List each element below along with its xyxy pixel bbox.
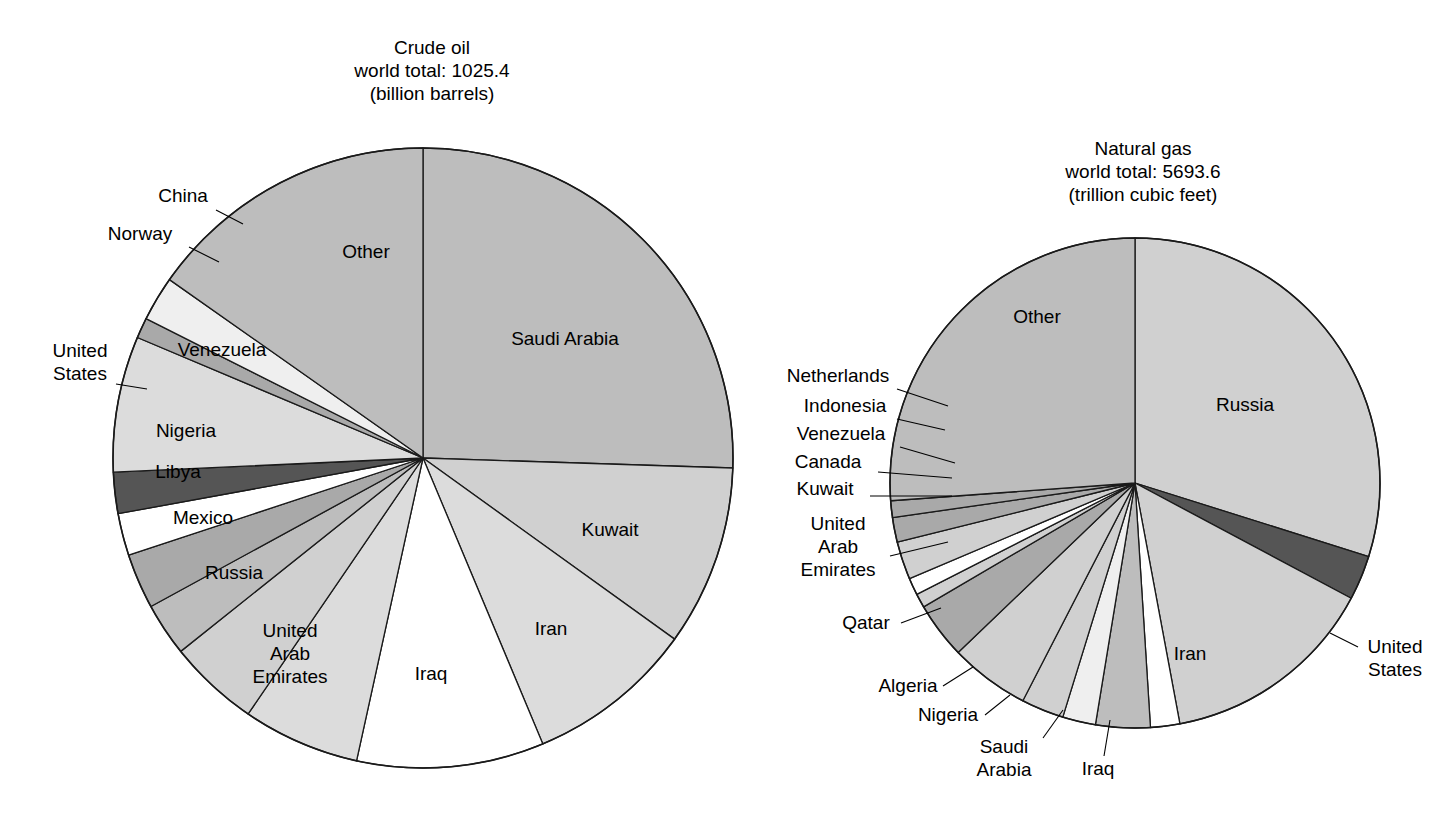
- slice-label-other-line-1: Other: [1013, 306, 1061, 327]
- title-crude-oil: Crude oilworld total: 1025.4(billion bar…: [353, 37, 510, 104]
- slice-label-russia: Russia: [1216, 394, 1275, 415]
- outside-label-nigeria: Nigeria: [918, 704, 979, 725]
- leader-line-united-states: [1330, 633, 1358, 647]
- slice-label-nigeria: Nigeria: [156, 420, 217, 441]
- slice-label-saudi-arabia: Saudi Arabia: [511, 328, 619, 349]
- outside-label-norway-line-1: Norway: [108, 223, 173, 244]
- chart-title-crude-oil-line-1: Crude oil: [394, 37, 470, 58]
- chart-title-crude-oil-line-3: (billion barrels): [370, 83, 495, 104]
- pie-natural-gas: [890, 238, 1380, 728]
- outside-label-china-line-1: China: [158, 185, 208, 206]
- slice-label-venezuela-line-1: Venezuela: [178, 339, 267, 360]
- slice-label-libya-line-1: Libya: [155, 461, 201, 482]
- outside-label-saudi-arabia-line-1: Saudi: [980, 736, 1029, 757]
- outside-label-qatar: Qatar: [842, 612, 890, 633]
- outside-label-algeria: Algeria: [878, 675, 938, 696]
- outside-label-united-states-line-2: States: [1368, 659, 1422, 680]
- chart-title-natural-gas: Natural gasworld total: 5693.6(trillion …: [1064, 138, 1220, 205]
- slice-label-kuwait: Kuwait: [581, 519, 639, 540]
- slice-label-russia-line-1: Russia: [205, 562, 264, 583]
- slice-label-venezuela: Venezuela: [178, 339, 267, 360]
- outside-label-canada: Canada: [795, 451, 862, 472]
- slice-label-iran-line-1: Iran: [535, 618, 568, 639]
- outside-label-qatar-line-1: Qatar: [842, 612, 890, 633]
- outside-label-kuwait-line-1: Kuwait: [796, 478, 854, 499]
- outside-label-united-states: UnitedStates: [1368, 636, 1423, 680]
- leader-line-nigeria: [985, 695, 1010, 715]
- slice-label-russia: Russia: [205, 562, 264, 583]
- slice-label-united-arab-emirates-line-1: United: [263, 620, 318, 641]
- slice-label-libya: Libya: [155, 461, 201, 482]
- outside-label-united-states-line-1: United: [1368, 636, 1423, 657]
- figure-panel: Crude oilworld total: 1025.4(billion bar…: [0, 0, 1450, 816]
- chart-title-natural-gas-line-3: (trillion cubic feet): [1069, 184, 1218, 205]
- chart-title-natural-gas-line-2: world total: 5693.6: [1064, 161, 1220, 182]
- outside-label-algeria-line-1: Algeria: [878, 675, 938, 696]
- outside-label-saudi-arabia-line-2: Arabia: [977, 759, 1032, 780]
- outside-label-united-states-line-1: United: [53, 340, 108, 361]
- slice-label-united-arab-emirates-line-3: Emirates: [253, 666, 328, 687]
- outside-label-venezuela: Venezuela: [797, 423, 886, 444]
- outside-label-indonesia-line-1: Indonesia: [804, 395, 887, 416]
- slice-label-iran-line-1: Iran: [1174, 643, 1207, 664]
- outside-label-united-states-line-2: States: [53, 363, 107, 384]
- outside-label-netherlands: Netherlands: [787, 365, 889, 386]
- wedge-crude-oil-saudi-arabia[interactable]: [423, 148, 733, 468]
- slice-label-kuwait-line-1: Kuwait: [581, 519, 639, 540]
- outside-label-iraq-line-1: Iraq: [1082, 758, 1115, 779]
- slice-label-united-arab-emirates-line-2: Arab: [270, 643, 310, 664]
- slice-label-mexico-line-1: Mexico: [173, 507, 233, 528]
- outside-label-united-states: UnitedStates: [53, 340, 108, 384]
- outside-label-united-arab-emirates-line-1: United: [811, 513, 866, 534]
- slice-label-mexico: Mexico: [173, 507, 233, 528]
- slice-label-nigeria-line-1: Nigeria: [156, 420, 217, 441]
- outside-label-kuwait: Kuwait: [796, 478, 854, 499]
- slice-label-other: Other: [342, 241, 390, 262]
- slice-label-other-line-1: Other: [342, 241, 390, 262]
- leader-line-algeria: [943, 667, 973, 686]
- outside-label-united-arab-emirates: UnitedArabEmirates: [801, 513, 876, 580]
- outside-label-china: China: [158, 185, 208, 206]
- outside-label-saudi-arabia: SaudiArabia: [977, 736, 1032, 780]
- slice-label-iraq-line-1: Iraq: [415, 663, 448, 684]
- chart-title-natural-gas-line-1: Natural gas: [1094, 138, 1191, 159]
- outside-label-netherlands-line-1: Netherlands: [787, 365, 889, 386]
- outside-label-indonesia: Indonesia: [804, 395, 887, 416]
- chart-title-crude-oil: Crude oilworld total: 1025.4(billion bar…: [353, 37, 510, 104]
- pie-charts-svg: Crude oilworld total: 1025.4(billion bar…: [0, 0, 1450, 816]
- slice-label-russia-line-1: Russia: [1216, 394, 1275, 415]
- wedge-natural-gas-other[interactable]: [890, 238, 1135, 501]
- slice-label-other: Other: [1013, 306, 1061, 327]
- slice-label-iran: Iran: [535, 618, 568, 639]
- outside-label-united-arab-emirates-line-3: Emirates: [801, 559, 876, 580]
- outside-label-united-arab-emirates-line-2: Arab: [818, 536, 858, 557]
- outside-label-canada-line-1: Canada: [795, 451, 862, 472]
- outside-label-venezuela-line-1: Venezuela: [797, 423, 886, 444]
- outside-label-nigeria-line-1: Nigeria: [918, 704, 979, 725]
- chart-title-crude-oil-line-2: world total: 1025.4: [353, 60, 510, 81]
- slice-label-iraq: Iraq: [415, 663, 448, 684]
- title-natural-gas: Natural gasworld total: 5693.6(trillion …: [1064, 138, 1220, 205]
- slice-label-iran: Iran: [1174, 643, 1207, 664]
- slice-label-saudi-arabia-line-1: Saudi Arabia: [511, 328, 619, 349]
- outside-label-norway: Norway: [108, 223, 173, 244]
- outside-label-iraq: Iraq: [1082, 758, 1115, 779]
